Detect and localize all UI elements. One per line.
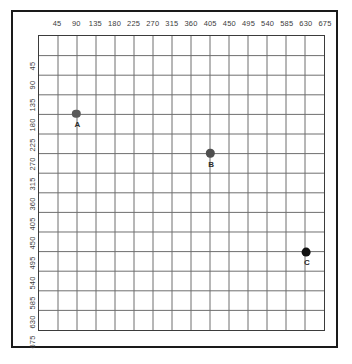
grid-lines [39, 36, 324, 330]
plot-area [38, 35, 325, 331]
coordinate-grid-figure: 4590135180225270315360405450495540585630… [0, 0, 352, 364]
